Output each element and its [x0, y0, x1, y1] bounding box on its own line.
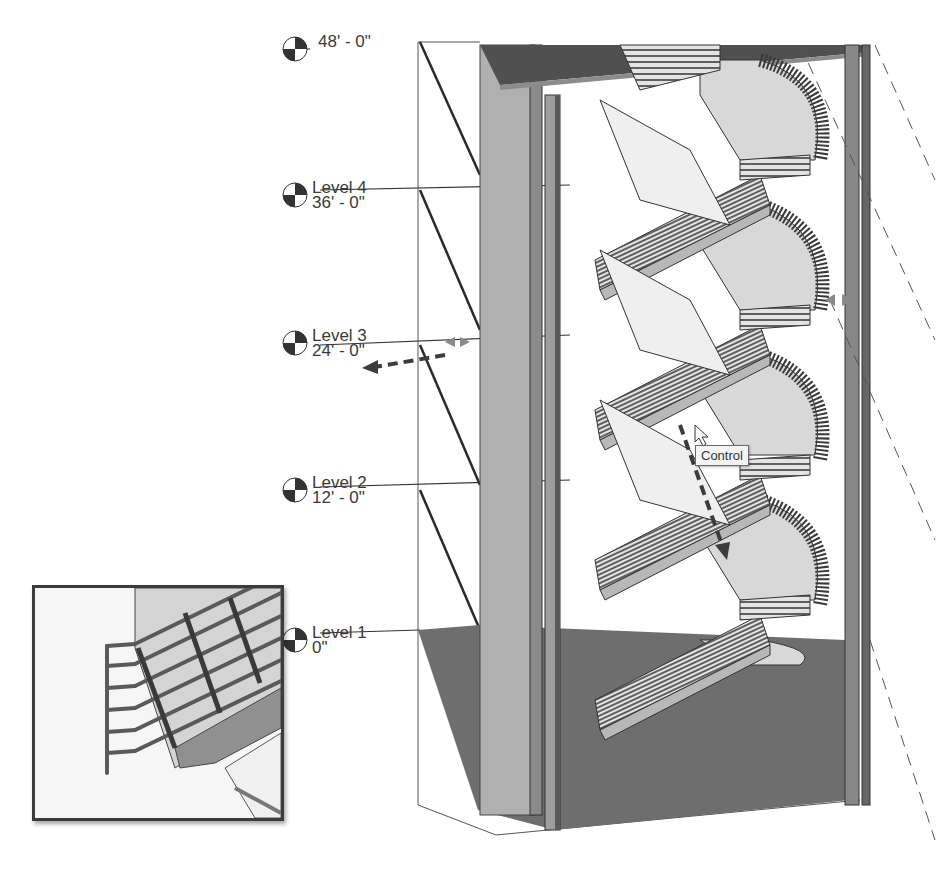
floor-edges-left — [420, 42, 480, 630]
level-head-icon — [280, 180, 310, 210]
control-tooltip: Control — [695, 445, 749, 466]
level-elevation[interactable]: 12' - 0" — [312, 490, 367, 505]
cursor-icon — [695, 425, 708, 446]
level-elevation[interactable]: 36' - 0" — [312, 195, 367, 210]
level-marker-1[interactable]: Level 1 0" — [280, 625, 367, 655]
level-marker-4[interactable]: Level 4 36' - 0" — [280, 180, 367, 210]
level-head-icon — [280, 625, 310, 655]
level-marker-3[interactable]: Level 3 24' - 0" — [280, 328, 367, 358]
level-head-icon — [280, 475, 310, 505]
railing-detail-inset — [32, 585, 284, 821]
level-head-icon — [280, 328, 310, 358]
flip-control-left — [445, 337, 470, 347]
level-elevation[interactable]: 24' - 0" — [312, 343, 367, 358]
level-elevation: 48' - 0" — [318, 34, 371, 49]
level-head-icon — [280, 34, 310, 64]
level-elevation[interactable]: 0" — [312, 640, 367, 655]
level-marker-5[interactable]: 48' - 0" — [280, 34, 371, 64]
level-marker-2[interactable]: Level 2 12' - 0" — [280, 475, 367, 505]
